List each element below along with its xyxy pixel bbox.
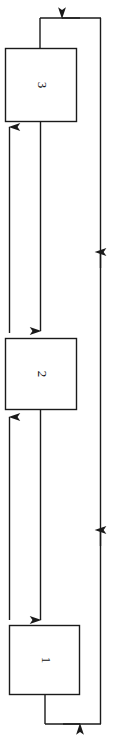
cycle-diagram: 3 2 1	[0, 0, 113, 746]
node-1[interactable]: 1	[10, 626, 80, 695]
diagram-canvas: 3 2 1	[0, 0, 113, 746]
node-2-label: 2	[35, 371, 50, 378]
node-1-label: 1	[39, 657, 54, 664]
node-3-label: 3	[35, 82, 50, 89]
node-3[interactable]: 3	[6, 49, 77, 122]
node-2[interactable]: 2	[6, 339, 77, 410]
